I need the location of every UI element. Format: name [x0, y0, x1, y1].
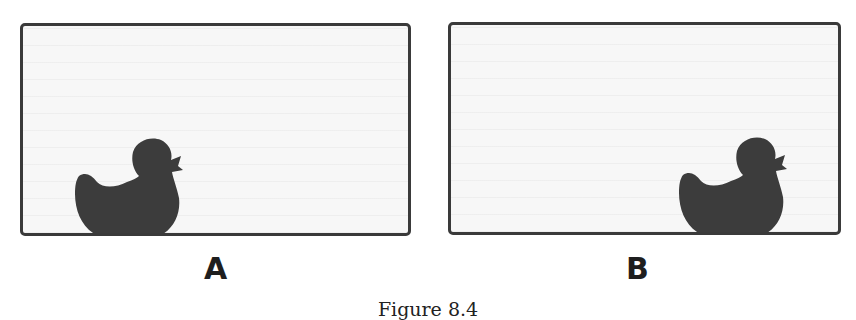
duck-silhouette-icon — [679, 135, 789, 235]
duck-silhouette-icon — [75, 136, 185, 236]
panel-label-a: A — [204, 254, 227, 284]
panel-a-frame — [20, 23, 411, 236]
figure-caption: Figure 8.4 — [0, 300, 856, 319]
panel-b-frame — [448, 22, 841, 235]
panel-label-b: B — [626, 254, 649, 284]
